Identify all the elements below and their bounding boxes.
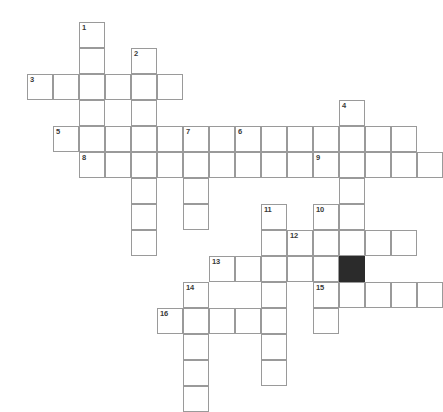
cell-c11-r5[interactable] [287, 152, 313, 178]
clue-number-10: 10 [316, 205, 324, 214]
cell-c12-r8[interactable] [313, 230, 339, 256]
cell-c4-r4[interactable] [105, 126, 131, 152]
cell-c14-r8[interactable] [365, 230, 391, 256]
clue-number-7: 7 [186, 127, 190, 136]
cell-c15-r8[interactable] [391, 230, 417, 256]
clue-number-1: 1 [82, 23, 86, 32]
clue-number-9: 9 [316, 153, 320, 162]
cell-c7-r13[interactable] [183, 360, 209, 386]
cell-c8-r4[interactable] [209, 126, 235, 152]
cell-c9-r5[interactable] [235, 152, 261, 178]
cell-c8-r5[interactable] [209, 152, 235, 178]
cell-c5-r3[interactable] [131, 100, 157, 126]
cell-c3-r3[interactable] [79, 100, 105, 126]
cell-c7-r11[interactable] [183, 308, 209, 334]
clue-number-12: 12 [290, 231, 298, 240]
cell-c16-r10[interactable] [417, 282, 443, 308]
cell-c12-r7[interactable]: 10 [313, 204, 339, 230]
cell-c5-r7[interactable] [131, 204, 157, 230]
cell-c2-r2[interactable] [53, 74, 79, 100]
cell-c15-r10[interactable] [391, 282, 417, 308]
cell-c12-r5[interactable]: 9 [313, 152, 339, 178]
cell-c3-r2[interactable] [79, 74, 105, 100]
cell-c12-r11[interactable] [313, 308, 339, 334]
cell-c11-r9[interactable] [287, 256, 313, 282]
cell-c3-r4[interactable] [79, 126, 105, 152]
clue-number-16: 16 [160, 309, 168, 318]
cell-c7-r6[interactable] [183, 178, 209, 204]
cell-c11-r4[interactable] [287, 126, 313, 152]
cell-c10-r11[interactable] [261, 308, 287, 334]
cell-c10-r9[interactable] [261, 256, 287, 282]
cell-c14-r10[interactable] [365, 282, 391, 308]
cell-c12-r4[interactable] [313, 126, 339, 152]
cell-c10-r4[interactable] [261, 126, 287, 152]
cell-c16-r5[interactable] [417, 152, 443, 178]
cell-c3-r0[interactable]: 1 [79, 22, 105, 48]
cell-c5-r4[interactable] [131, 126, 157, 152]
clue-number-15: 15 [316, 283, 324, 292]
clue-number-4: 4 [342, 101, 346, 110]
cell-c2-r4[interactable]: 5 [53, 126, 79, 152]
cell-c10-r13[interactable] [261, 360, 287, 386]
cell-c5-r6[interactable] [131, 178, 157, 204]
block-cell [339, 256, 365, 282]
cell-c10-r5[interactable] [261, 152, 287, 178]
cell-c9-r9[interactable] [235, 256, 261, 282]
cell-c6-r5[interactable] [157, 152, 183, 178]
clue-number-8: 8 [82, 153, 86, 162]
cell-c4-r2[interactable] [105, 74, 131, 100]
cell-c7-r14[interactable] [183, 386, 209, 412]
cell-c8-r11[interactable] [209, 308, 235, 334]
cell-c7-r5[interactable] [183, 152, 209, 178]
cell-c3-r5[interactable]: 8 [79, 152, 105, 178]
cell-c12-r9[interactable] [313, 256, 339, 282]
cell-c13-r7[interactable] [339, 204, 365, 230]
cell-c7-r7[interactable] [183, 204, 209, 230]
cell-c6-r11[interactable]: 16 [157, 308, 183, 334]
cell-c5-r8[interactable] [131, 230, 157, 256]
clue-number-14: 14 [186, 283, 194, 292]
clue-number-13: 13 [212, 257, 220, 266]
cell-c10-r8[interactable] [261, 230, 287, 256]
cell-c6-r4[interactable] [157, 126, 183, 152]
cell-c10-r10[interactable] [261, 282, 287, 308]
cell-c5-r2[interactable] [131, 74, 157, 100]
cell-c1-r2[interactable]: 3 [27, 74, 53, 100]
cell-c5-r5[interactable] [131, 152, 157, 178]
clue-number-2: 2 [134, 49, 138, 58]
cell-c12-r10[interactable]: 15 [313, 282, 339, 308]
cell-c3-r1[interactable] [79, 48, 105, 74]
cell-c10-r7[interactable]: 11 [261, 204, 287, 230]
cell-c14-r5[interactable] [365, 152, 391, 178]
cell-c13-r6[interactable] [339, 178, 365, 204]
cell-c13-r8[interactable] [339, 230, 365, 256]
cell-c15-r5[interactable] [391, 152, 417, 178]
cell-c15-r4[interactable] [391, 126, 417, 152]
cell-c13-r10[interactable] [339, 282, 365, 308]
cell-c9-r4[interactable]: 6 [235, 126, 261, 152]
cell-c8-r9[interactable]: 13 [209, 256, 235, 282]
cell-c6-r2[interactable] [157, 74, 183, 100]
cell-c7-r4[interactable]: 7 [183, 126, 209, 152]
clue-number-3: 3 [30, 75, 34, 84]
cell-c9-r11[interactable] [235, 308, 261, 334]
cell-c7-r10[interactable]: 14 [183, 282, 209, 308]
cell-c10-r12[interactable] [261, 334, 287, 360]
cell-c13-r5[interactable] [339, 152, 365, 178]
clue-number-6: 6 [238, 127, 242, 136]
cell-c7-r12[interactable] [183, 334, 209, 360]
cell-c14-r4[interactable] [365, 126, 391, 152]
cell-c13-r4[interactable] [339, 126, 365, 152]
cell-c11-r8[interactable]: 12 [287, 230, 313, 256]
clue-number-11: 11 [264, 205, 272, 214]
cell-c13-r3[interactable]: 4 [339, 100, 365, 126]
cell-c4-r5[interactable] [105, 152, 131, 178]
cell-c5-r1[interactable]: 2 [131, 48, 157, 74]
clue-number-5: 5 [56, 127, 60, 136]
